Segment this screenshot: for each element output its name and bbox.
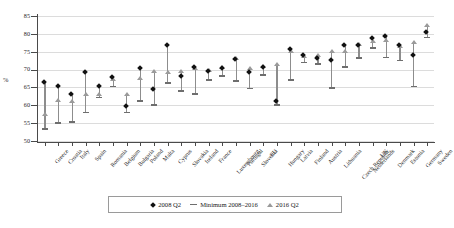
minimum-marker: [96, 97, 102, 99]
y-axis-tick: [31, 52, 37, 53]
x-axis-tick: [318, 142, 319, 146]
minimum-marker: [110, 86, 116, 88]
dash-marker-icon: [190, 204, 197, 206]
legend-label: 2016 Q2: [276, 201, 299, 208]
y-axis-tick-label: 60: [14, 102, 30, 108]
minimum-marker: [83, 112, 89, 114]
x-axis-tick: [209, 142, 210, 146]
marker-2016q2: [151, 69, 157, 73]
marker-2016q2: [96, 92, 102, 96]
y-axis-tick-label: 50: [14, 138, 30, 144]
minimum-marker: [178, 90, 184, 92]
x-axis-tick: [181, 142, 182, 146]
range-bar: [44, 82, 45, 129]
x-axis-tick-label: Finland: [313, 148, 330, 166]
y-axis-tick-label: 85: [14, 13, 30, 19]
minimum-marker: [397, 60, 403, 62]
marker-2016q2: [55, 98, 61, 102]
marker-2016q2: [137, 76, 143, 80]
minimum-marker: [274, 104, 280, 106]
range-bar: [140, 68, 141, 101]
x-axis-tick: [386, 142, 387, 146]
y-axis-tick-label: 70: [14, 66, 30, 72]
legend-label: 2008 Q2: [158, 201, 181, 208]
x-axis-tick: [345, 142, 346, 146]
y-axis-tick-label: 65: [14, 84, 30, 90]
x-axis-tick: [250, 142, 251, 146]
x-axis-tick-label: Malta: [162, 148, 176, 162]
minimum-marker: [411, 86, 417, 88]
y-axis-tick: [31, 16, 37, 17]
minimum-marker: [301, 62, 307, 64]
marker-2016q2: [124, 92, 130, 96]
y-axis-tick-label: 80: [14, 31, 30, 37]
minimum-marker: [219, 75, 225, 77]
marker-2016q2: [274, 62, 280, 66]
triangle-marker-icon: [267, 203, 273, 207]
minimum-marker: [342, 66, 348, 68]
x-axis-tick: [99, 142, 100, 146]
minimum-marker: [55, 122, 61, 124]
y-axis-tick-label: 55: [14, 120, 30, 126]
marker-2016q2: [424, 23, 430, 27]
minimum-marker: [383, 57, 389, 59]
x-axis-tick: [427, 142, 428, 146]
minimum-marker: [192, 93, 198, 95]
x-axis-tick: [58, 142, 59, 146]
minimum-marker: [424, 37, 430, 39]
x-axis-tick: [400, 142, 401, 146]
x-axis-tick: [414, 142, 415, 146]
minimum-marker: [165, 82, 171, 84]
x-axis-tick-label: France: [217, 148, 232, 164]
x-axis-tick: [236, 142, 237, 146]
y-axis-tick: [31, 123, 37, 124]
minimum-marker: [69, 121, 75, 123]
y-axis-tick-label: 75: [14, 49, 30, 55]
x-axis-tick: [140, 142, 141, 146]
marker-2016q2: [165, 70, 171, 74]
y-axis-tick: [31, 87, 37, 88]
legend-item-minimum: Minimum 2008–2016: [190, 201, 258, 208]
minimum-marker: [151, 104, 157, 106]
x-axis-tick-label: Greece: [53, 148, 69, 165]
marker-2016q2: [178, 69, 184, 73]
y-axis-tick: [31, 105, 37, 106]
y-axis-line: [37, 14, 38, 143]
x-axis-tick: [222, 142, 223, 146]
legend-label: Minimum 2008–2016: [200, 201, 258, 208]
range-bar: [58, 86, 59, 123]
minimum-marker: [288, 79, 294, 81]
x-axis-tick: [154, 142, 155, 146]
x-axis-tick: [304, 142, 305, 146]
x-axis-tick: [332, 142, 333, 146]
minimum-marker: [260, 74, 266, 76]
x-axis-tick: [127, 142, 128, 146]
chart-legend: 2008 Q2 Minimum 2008–2016 2016 Q2: [108, 196, 342, 213]
x-axis-tick: [373, 142, 374, 146]
range-bar: [290, 49, 291, 80]
legend-item-2016q2: 2016 Q2: [267, 201, 299, 208]
x-axis-tick: [263, 142, 264, 146]
marker-2016q2: [69, 99, 75, 103]
marker-2016q2: [411, 40, 417, 44]
marker-2016q2: [342, 49, 348, 53]
x-axis-tick: [45, 142, 46, 146]
minimum-marker: [206, 79, 212, 81]
x-axis-tick: [113, 142, 114, 146]
minimum-marker: [329, 87, 335, 89]
minimum-marker: [124, 112, 130, 114]
y-axis-tick: [31, 70, 37, 71]
x-axis-tick: [72, 142, 73, 146]
legend-item-2008q2: 2008 Q2: [151, 201, 181, 208]
range-bar: [195, 67, 196, 93]
gridline: [38, 34, 434, 35]
gridline: [38, 52, 434, 53]
range-bar: [413, 43, 414, 87]
marker-2016q2: [83, 92, 89, 96]
minimum-marker: [137, 100, 143, 102]
marker-2016q2: [42, 112, 48, 116]
x-axis-tick: [291, 142, 292, 146]
minimum-marker: [42, 128, 48, 130]
y-axis-title: %: [3, 76, 8, 83]
